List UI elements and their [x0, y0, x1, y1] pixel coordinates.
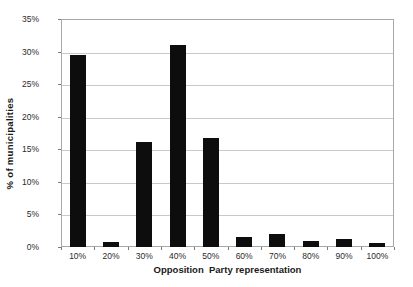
- x-tick-mark: [261, 247, 262, 250]
- x-tick-mark: [128, 247, 129, 250]
- x-tick-mark: [294, 247, 295, 250]
- x-tick-label: 100%: [357, 251, 397, 261]
- bar: [269, 234, 285, 247]
- bar: [336, 239, 352, 247]
- bars-container: [61, 19, 394, 247]
- x-axis-ticks: 10%20%30%40%50%60%70%80%90%100%: [61, 247, 394, 263]
- x-tick-mark: [194, 247, 195, 250]
- y-tick-label: 35%: [0, 14, 39, 24]
- x-tick-mark: [228, 247, 229, 250]
- x-tick-mark: [161, 247, 162, 250]
- y-tick-label: 0%: [0, 242, 39, 252]
- bar: [236, 237, 252, 247]
- x-tick-mark: [361, 247, 362, 250]
- y-tick-label: 20%: [0, 112, 39, 122]
- x-tick-mark: [94, 247, 95, 250]
- bar: [170, 45, 186, 247]
- bar-chart: % of municipalities 0%5%10%15%20%25%30%3…: [0, 0, 413, 287]
- x-tick-mark: [327, 247, 328, 250]
- x-tick-mark: [61, 247, 62, 250]
- x-axis-title: Opposition Party representation: [61, 264, 394, 275]
- x-tick-mark: [394, 247, 395, 250]
- bar: [70, 55, 86, 247]
- y-tick-label: 5%: [0, 209, 39, 219]
- y-tick-label: 30%: [0, 47, 39, 57]
- bar: [203, 138, 219, 247]
- y-tick-label: 10%: [0, 177, 39, 187]
- y-tick-label: 25%: [0, 79, 39, 89]
- y-tick-label: 15%: [0, 144, 39, 154]
- bar: [136, 142, 152, 247]
